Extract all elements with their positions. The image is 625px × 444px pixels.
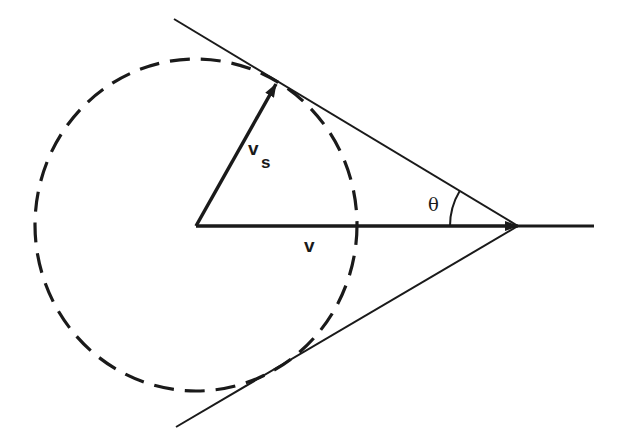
v-label-text: v [304, 235, 315, 256]
v-label: v [304, 236, 315, 255]
theta-label-text: θ [428, 194, 439, 215]
upper-tangent-line [174, 19, 518, 226]
theta-angle-arc [450, 191, 460, 226]
vs-label-main: v [248, 138, 259, 159]
theta-label: θ [428, 196, 439, 214]
vs-label-sub: s [261, 153, 270, 172]
vs-label-subscript: s [261, 154, 270, 171]
lower-tangent-line [176, 226, 518, 427]
vs-label: v [248, 139, 259, 158]
mach-cone-diagram [0, 0, 625, 444]
